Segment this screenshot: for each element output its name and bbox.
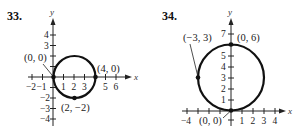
graph-34: 34. x y: [162, 7, 292, 127]
tick-label: 1: [240, 116, 245, 126]
graph-33: 33. x y: [7, 7, 138, 126]
tick-label: 5: [221, 51, 226, 61]
point-0-6: [229, 42, 234, 47]
tick-label: 4: [221, 62, 226, 72]
point-neg3-3: [196, 75, 201, 80]
tick-label: 2: [221, 84, 226, 94]
leader-line: [43, 64, 52, 75]
tick-label: −1: [37, 82, 47, 92]
x-axis-arrow-34: [279, 109, 286, 114]
point-label-0-0: (0, 0): [199, 115, 222, 127]
tick-label: 3: [262, 116, 267, 126]
problem-number-33: 33.: [7, 9, 22, 23]
tick-label: −4: [181, 116, 191, 126]
tick-label: 2: [251, 116, 256, 126]
tick-label: 3: [82, 82, 87, 92]
tick-label: 5: [103, 82, 108, 92]
tick-label: −2: [40, 93, 50, 103]
figure: 33. x y: [0, 0, 301, 134]
y-axis-arrow-34: [229, 18, 234, 25]
point-4-0: [93, 75, 98, 80]
tick-label: 3: [221, 73, 226, 83]
point-0-0: [51, 75, 56, 80]
point-label-2-neg2: (2, −2): [61, 102, 90, 114]
y-axis-arrow-33: [51, 18, 56, 25]
tick-label: 6: [114, 82, 119, 92]
point-label-neg3-3: (−3, 3): [183, 32, 212, 44]
point-label-0-6: (0, 6): [237, 32, 260, 44]
leader-line: [223, 112, 230, 118]
tick-label: 1: [221, 95, 226, 105]
x-axis-arrow-33: [125, 75, 132, 80]
x-axis-label-33: x: [133, 72, 138, 82]
point-label-0-0: (0, 0): [24, 52, 47, 64]
y-axis-label-33: y: [49, 7, 54, 17]
problem-number-34: 34.: [162, 9, 177, 23]
tick-label: 7: [221, 29, 226, 39]
tick-label: −4: [40, 114, 50, 124]
point-2-neg2: [72, 96, 77, 101]
tick-label: 4: [44, 30, 49, 40]
leader-line: [190, 44, 198, 75]
tick-label: 3: [44, 41, 49, 51]
tick-label: 2: [72, 82, 77, 92]
y-axis-label-34: y: [227, 7, 232, 17]
tick-label: 4: [273, 116, 278, 126]
tick-label: −3: [40, 104, 50, 114]
tick-label: −2: [26, 82, 36, 92]
x-axis-label-34: x: [287, 106, 292, 116]
point-label-4-0: (4, 0): [97, 63, 120, 75]
tick-label: 1: [61, 82, 66, 92]
